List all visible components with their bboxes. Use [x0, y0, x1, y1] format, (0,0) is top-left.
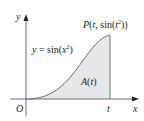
- t-tick-label: t: [107, 104, 110, 114]
- origin-label: O: [16, 104, 23, 114]
- curve-equation-label: y = sin(x2): [32, 45, 73, 55]
- y-axis-label: y: [16, 12, 20, 22]
- area-label: A(t): [81, 77, 97, 87]
- point-label: P(t, sin(t2)): [83, 20, 128, 30]
- area-under-curve-diagram: y P(t, sin(t2)) y = sin(x2) A(t) O t x: [0, 0, 144, 121]
- y-axis-arrow-icon: [24, 14, 29, 21]
- x-axis-label: x: [133, 104, 137, 114]
- x-axis-arrow-icon: [132, 97, 139, 102]
